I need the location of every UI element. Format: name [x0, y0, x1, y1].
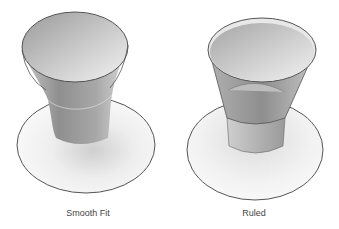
figure-canvas	[0, 0, 339, 229]
smooth-fit-caption: Smooth Fit	[66, 208, 110, 218]
smooth-fit-surface	[17, 12, 155, 193]
ruled-surface	[187, 18, 323, 200]
ruled-caption: Ruled	[242, 208, 266, 218]
